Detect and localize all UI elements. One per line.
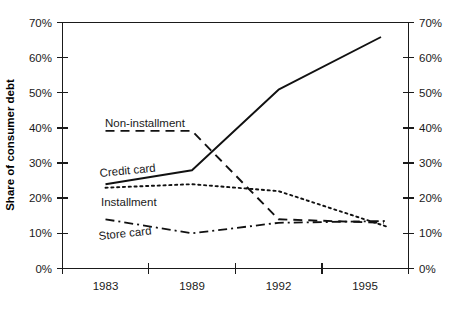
series-labels: Non-installment Credit card Installment … bbox=[98, 117, 186, 242]
y2-tick-label-20: 20% bbox=[419, 192, 442, 204]
y-tick-label-10: 10% bbox=[29, 227, 52, 239]
series-label-non-installment: Non-installment bbox=[105, 117, 186, 129]
y-tick-label-20: 20% bbox=[29, 192, 52, 204]
series-label-credit-card: Credit card bbox=[99, 162, 156, 179]
series-label-installment: Installment bbox=[101, 196, 157, 208]
y-tick-label-0: 0% bbox=[35, 263, 52, 275]
y2-tick-label-70: 70% bbox=[419, 17, 442, 29]
y-axis-title: Share of consumer debt bbox=[4, 79, 16, 211]
y-tick-label-40: 40% bbox=[29, 122, 52, 134]
y-tick-label-50: 50% bbox=[29, 87, 52, 99]
x-tick-label-1995: 1995 bbox=[352, 280, 378, 292]
series-label-store-card: Store card bbox=[98, 225, 152, 242]
x-axis-ticks: 1983 1989 1992 1995 bbox=[63, 263, 409, 292]
line-chart: 70% 60% 50% 40% 30% 20% 10% 0% 70% 60% 5… bbox=[0, 0, 455, 309]
y2-tick-label-40: 40% bbox=[419, 122, 442, 134]
y2-tick-label-50: 50% bbox=[419, 87, 442, 99]
y2-tick-label-0: 0% bbox=[419, 263, 436, 275]
x-tick-label-1983: 1983 bbox=[93, 280, 119, 292]
y-tick-label-60: 60% bbox=[29, 52, 52, 64]
chart-container: 70% 60% 50% 40% 30% 20% 10% 0% 70% 60% 5… bbox=[0, 0, 455, 309]
x-tick-label-1989: 1989 bbox=[179, 280, 205, 292]
y-tick-label-70: 70% bbox=[29, 17, 52, 29]
y2-tick-label-30: 30% bbox=[419, 157, 442, 169]
y2-tick-label-60: 60% bbox=[419, 52, 442, 64]
y-tick-label-30: 30% bbox=[29, 157, 52, 169]
y2-tick-label-10: 10% bbox=[419, 227, 442, 239]
x-tick-label-1992: 1992 bbox=[266, 280, 292, 292]
